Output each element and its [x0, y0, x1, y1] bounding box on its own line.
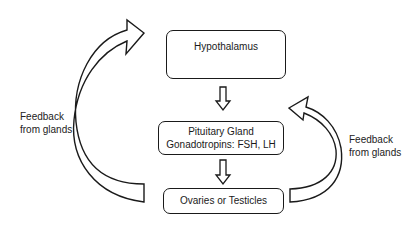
- pituitary-label: Pituitary Gland: [159, 125, 283, 138]
- pituitary-box: Pituitary Gland Gonadotropins: FSH, LH: [158, 121, 284, 155]
- feedback-label-left: Feedback from glands: [20, 110, 72, 136]
- gonadotropins-label: Gonadotropins: FSH, LH: [159, 138, 283, 151]
- gonads-box: Ovaries or Testicles: [163, 188, 284, 214]
- gonads-label: Ovaries or Testicles: [164, 194, 283, 207]
- feedback-label-left-line1: Feedback: [20, 110, 72, 123]
- feedback-label-right-line2: from glands: [349, 146, 401, 159]
- hypothalamus-label: Hypothalamus: [167, 40, 285, 53]
- feedback-label-left-line2: from glands: [20, 123, 72, 136]
- feedback-arrow-left-icon: [74, 20, 144, 202]
- down-arrow-1-icon: [216, 87, 230, 110]
- hypothalamus-box: Hypothalamus: [166, 30, 286, 79]
- feedback-arrow-right-icon: [289, 97, 342, 202]
- feedback-label-right: Feedback from glands: [349, 133, 401, 159]
- feedback-label-right-line1: Feedback: [349, 133, 401, 146]
- down-arrow-2-icon: [216, 160, 230, 184]
